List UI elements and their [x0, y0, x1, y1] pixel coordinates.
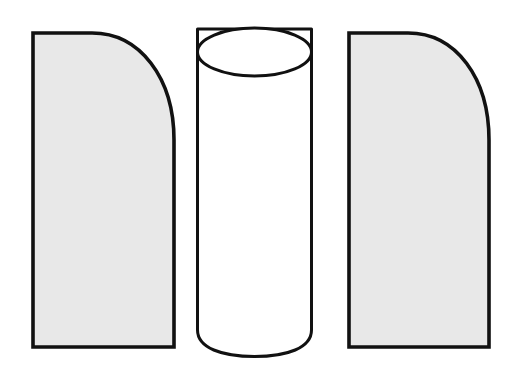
- cylinder-body-shape: [198, 29, 312, 357]
- right-panel-shape: [349, 33, 489, 347]
- cylinder-top-cap: [198, 28, 312, 76]
- left-panel-shape: [33, 33, 174, 347]
- figure-container: des impulsi. Starren Pfeilers: [0, 0, 520, 387]
- figure-illustration: [0, 0, 520, 387]
